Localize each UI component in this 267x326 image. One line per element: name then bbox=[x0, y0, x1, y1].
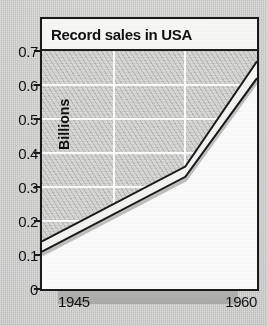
y-tick-mark bbox=[34, 84, 40, 86]
y-tick-mark bbox=[34, 118, 40, 120]
series-lines bbox=[42, 51, 257, 289]
x-tick-label: 1945 bbox=[58, 293, 90, 310]
x-tick-label: 1960 bbox=[225, 293, 257, 310]
y-tick-mark bbox=[34, 220, 40, 222]
y-tick-mark bbox=[34, 50, 40, 52]
chart-title: Record sales in USA bbox=[51, 26, 192, 43]
y-tick-mark bbox=[34, 254, 40, 256]
chart-title-band: Record sales in USA bbox=[42, 19, 257, 51]
y-tick-mark bbox=[34, 288, 40, 290]
chart-frame: Record sales in USA bbox=[40, 17, 259, 291]
y-axis-label: Billions bbox=[56, 99, 72, 150]
y-tick-mark bbox=[34, 152, 40, 154]
plot-area bbox=[42, 51, 257, 289]
y-tick-mark bbox=[34, 186, 40, 188]
